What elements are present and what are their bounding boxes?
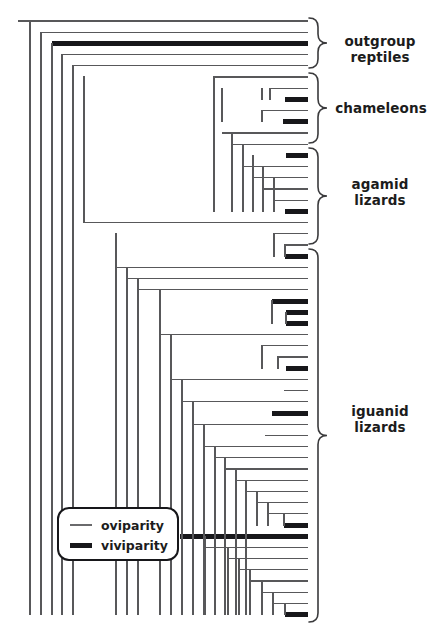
clade-bracket-iguanid-lizards (309, 249, 327, 622)
clade-label-iguanid-lizards: iguanid lizards (336, 403, 424, 436)
clade-label-outgroup-reptiles: outgroup reptiles (332, 33, 428, 66)
figure-canvas: oviparityviviparity outgroup reptiles ch… (0, 0, 433, 629)
clade-label-chameleons: chameleons (330, 100, 432, 116)
legend-group[interactable]: oviparityviviparity (58, 508, 178, 560)
clade-bracket-outgroup-reptiles (309, 18, 327, 68)
cladogram-svg: oviparityviviparity (0, 0, 433, 629)
clade-brackets (309, 18, 327, 622)
legend-label-viviparity: viviparity (101, 538, 168, 553)
legend-label-oviparity: oviparity (101, 518, 164, 533)
clade-bracket-agamid-lizards (309, 148, 327, 244)
clade-bracket-chameleons (309, 73, 327, 143)
clade-label-agamid-lizards: agamid lizards (336, 176, 424, 209)
